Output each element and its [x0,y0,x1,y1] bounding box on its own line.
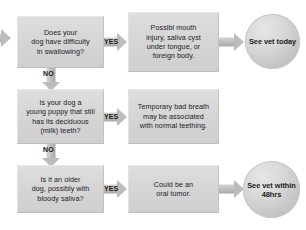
question-line-1: Is it an older [32,175,90,184]
result-text: Possibl mouth injury, saliva cyst under … [146,23,201,61]
question-line-3: has its deciduous [26,117,95,126]
branch-label-yes-row3: YES [104,185,118,192]
outcome-circle-see-vet-48hrs[interactable]: See vet within 48hrs [243,161,300,218]
arrow-head [117,108,127,126]
arrow-head [1,29,11,47]
result-box-mouth-injury[interactable]: Possibl mouth injury, saliva cyst under … [128,12,219,72]
arrow-head [117,180,127,198]
result-box-teething[interactable]: Temporary bad breath may be associated w… [128,89,219,144]
branch-label-yes-row2: YES [104,113,118,120]
outcome-line-2: today [277,37,296,46]
branch-label-no-row2: NO [43,146,54,153]
result-line-3: under tongue, or [146,42,201,51]
result-line-2: injury, saliva cyst [146,33,201,42]
flowchart-diagram: Does your dog have difficulty in swallow… [0,0,306,230]
question-box-swallowing[interactable]: Does your dog have difficulty in swallow… [17,16,104,68]
result-line-1: Temporary bad breath [138,102,209,111]
branch-label-yes-row1: YES [104,38,118,45]
arrow-shaft [219,38,235,47]
arrow-to-outcome-today [219,33,245,51]
question-text: Is it an older dog, possibly with bloody… [32,175,90,203]
question-box-older-dog[interactable]: Is it an older dog, possibly with bloody… [17,165,104,213]
question-box-puppy-teeth[interactable]: Is your dog a young puppy that still has… [17,89,104,144]
result-line-3: with normal teething. [138,121,209,130]
result-text: Could be an oral tumor. [154,180,193,199]
arrow-head [234,33,244,51]
outcome-line-1: See [247,181,260,190]
result-line-1: Could be an [154,180,193,189]
question-line-3: in swallowing? [31,47,89,56]
outcome-circle-see-vet-today[interactable]: See vet today [245,14,300,69]
result-line-1: Possibl mouth [146,23,201,32]
arrow-head [117,33,127,51]
result-text: Temporary bad breath may be associated w… [138,102,209,130]
incoming-arrow-left-edge [0,29,12,47]
question-text: Does your dog have difficulty in swallow… [31,28,89,56]
question-line-4: (milk) teeth? [26,126,95,135]
result-line-2: oral tumor. [154,189,193,198]
arrow-shaft [219,185,235,194]
question-line-2: young puppy that still [26,107,95,116]
outcome-line-3: 48hrs [262,190,281,199]
question-line-2: dog have difficulty [31,37,89,46]
branch-label-no-row1: NO [43,70,54,77]
result-line-4: foreign body. [146,51,201,60]
outcome-line-1: See vet [249,37,275,46]
result-box-oral-tumor[interactable]: Could be an oral tumor. [128,165,219,213]
question-line-1: Is your dog a [26,98,95,107]
question-line-3: bloody saliva? [32,194,90,203]
result-line-2: may be associated [138,112,209,121]
question-line-1: Does your [31,28,89,37]
arrow-to-outcome-48hrs [219,180,245,198]
question-text: Is your dog a young puppy that still has… [26,98,95,136]
question-line-2: dog, possibly with [32,184,90,193]
outcome-text: See vet today [249,37,296,46]
outcome-line-2: vet within [262,181,296,190]
outcome-text: See vet within 48hrs [243,181,300,199]
